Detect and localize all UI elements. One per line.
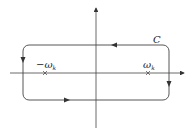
contour-label: C [153,34,161,45]
arrow-left-down-icon [21,57,26,63]
pole-label-negative: −ωk [36,59,57,71]
arrow-bottom-right-icon [64,98,70,103]
contour-diagram: −ωk ωk C [0,0,196,134]
pole-label-positive: ωk [143,59,155,71]
arrow-top-left-icon [111,43,117,48]
arrow-right-down-icon [167,81,172,87]
